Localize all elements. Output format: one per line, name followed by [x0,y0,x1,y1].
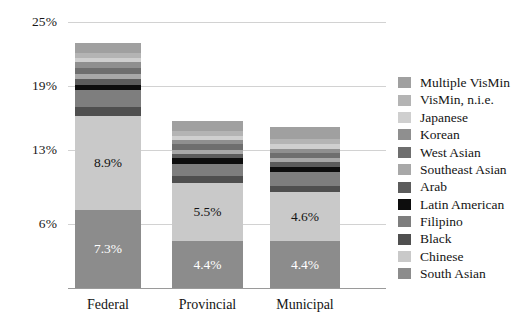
bar-segment[interactable] [270,172,340,186]
bar-segment[interactable] [270,149,340,153]
legend-item-label: Korean [420,128,460,142]
legend-item-label: Multiple VisMin [420,76,510,90]
bar-segment[interactable] [75,68,141,74]
bar-segment[interactable] [75,53,141,58]
bar-segment[interactable] [75,74,141,79]
legend-item-label: Chinese [420,250,464,264]
bar-segment[interactable] [75,62,141,67]
legend-item[interactable]: Latin American [398,196,529,213]
stacked-bar-chart: 25%19%13%6%7.3%8.9%Federal4.4%5.5%Provin… [0,0,529,325]
plot-area: 25%19%13%6%7.3%8.9%Federal4.4%5.5%Provin… [0,0,390,325]
bar-segment[interactable] [172,144,243,149]
bar-segment[interactable] [270,192,340,241]
x-axis-tick-label: Municipal [248,298,362,312]
legend-swatch-icon [398,147,411,158]
bar-segment[interactable] [172,136,243,140]
bar-segment[interactable] [270,186,340,192]
bar-segment[interactable] [270,158,340,162]
bar-segment[interactable] [172,140,243,144]
bar-segment[interactable] [172,154,243,158]
legend-item-label: Southeast Asian [420,163,507,177]
legend-item-label: Filipino [420,215,463,229]
legend-item-label: West Asian [420,146,481,160]
bar-segment[interactable] [172,131,243,136]
legend-item[interactable]: West Asian [398,144,529,161]
y-axis-tick-label: 6% [0,217,57,231]
bar-municipal[interactable]: 4.4%4.6% [270,0,340,288]
legend-swatch-icon [398,268,411,279]
bar-segment[interactable] [270,139,340,144]
legend-item[interactable]: Filipino [398,213,529,230]
bar-segment[interactable] [75,43,141,53]
legend-swatch-icon [398,164,411,175]
legend-item-label: Black [420,232,452,246]
bar-segment[interactable] [172,241,243,288]
legend-swatch-icon [398,251,411,262]
bar-segment[interactable] [75,90,141,107]
legend-item-label: VisMin, n.i.e. [420,93,494,107]
bar-segment[interactable] [75,85,141,90]
bar-segment[interactable] [270,162,340,166]
legend-item-label: Arab [420,180,447,194]
legend-swatch-icon [398,199,411,210]
bar-segment[interactable] [172,164,243,177]
legend-swatch-icon [398,216,411,227]
bar-segment[interactable] [270,153,340,158]
legend-item[interactable]: Multiple VisMin [398,74,529,91]
legend-item[interactable]: VisMin, n.i.e. [398,91,529,108]
y-axis-tick-label: 19% [0,79,57,93]
bar-federal[interactable]: 7.3%8.9% [75,0,141,288]
bar-segment[interactable] [172,150,243,154]
legend-item[interactable]: Black [398,231,529,248]
legend-item[interactable]: Chinese [398,248,529,265]
y-axis-tick-label: 25% [0,15,57,29]
legend-item[interactable]: Arab [398,178,529,195]
bar-segment[interactable] [75,210,141,288]
x-axis-baseline [68,288,386,289]
bar-provincial[interactable]: 4.4%5.5% [172,0,243,288]
legend-item-label: Japanese [420,111,468,125]
chart-legend: Multiple VisMinVisMin, n.i.e.JapaneseKor… [398,74,529,283]
bar-segment[interactable] [270,167,340,172]
legend-swatch-icon [398,95,411,106]
bar-segment[interactable] [270,144,340,148]
bar-segment[interactable] [172,176,243,182]
bar-segment[interactable] [75,79,141,84]
bar-segment[interactable] [75,116,141,211]
y-axis-tick-label: 13% [0,143,57,157]
legend-item[interactable]: Southeast Asian [398,161,529,178]
legend-swatch-icon [398,77,411,88]
bar-segment[interactable] [172,158,243,163]
bar-segment[interactable] [270,127,340,139]
bar-segment[interactable] [75,107,141,116]
bar-segment[interactable] [172,183,243,242]
legend-item[interactable]: Korean [398,126,529,143]
legend-swatch-icon [398,129,411,140]
legend-item-label: Latin American [420,198,504,212]
legend-item[interactable]: Japanese [398,109,529,126]
legend-item[interactable]: South Asian [398,265,529,282]
legend-swatch-icon [398,112,411,123]
bar-segment[interactable] [270,241,340,288]
x-axis-tick-label: Federal [53,298,163,312]
legend-swatch-icon [398,234,411,245]
legend-item-label: South Asian [420,267,486,281]
bar-segment[interactable] [172,121,243,131]
legend-swatch-icon [398,182,411,193]
bar-segment[interactable] [75,58,141,62]
